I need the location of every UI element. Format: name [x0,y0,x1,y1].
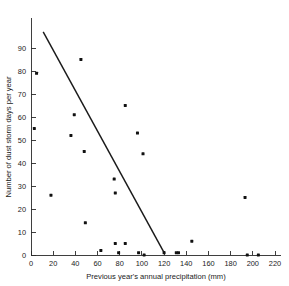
y-tick-label: 10 [18,228,26,237]
y-axis-tick-labels: 0102030405060708090 [18,44,26,260]
data-point [143,254,146,257]
data-point [246,254,249,257]
data-point [124,104,127,107]
y-tick-label: 70 [18,90,26,99]
x-axis-ticks [31,251,275,256]
x-tick-label: 100 [136,259,148,268]
data-point [114,191,117,194]
data-point [137,251,140,254]
data-point [114,242,117,245]
scatter-chart-figure: 020406080100120140160180200220 010203040… [0,0,289,286]
data-point [79,58,82,61]
data-point [244,196,247,199]
data-point [190,240,193,243]
data-point [84,221,87,224]
data-point [257,254,260,257]
data-point [117,251,120,254]
regression-trendline [43,32,164,253]
data-point [83,150,86,153]
x-tick-label: 120 [158,259,170,268]
data-point [177,251,180,254]
data-point [163,251,166,254]
x-tick-label: 0 [29,259,33,268]
y-tick-label: 20 [18,205,26,214]
axes-group [31,18,281,255]
x-tick-label: 180 [224,259,236,268]
data-point [99,249,102,252]
y-axis-ticks [31,48,36,255]
x-tick-label: 80 [116,259,124,268]
data-point [35,72,38,75]
x-tick-label: 60 [93,259,101,268]
data-point [136,132,139,135]
data-point [49,194,52,197]
y-tick-label: 0 [22,251,26,260]
x-axis-title: Previous year's annual precipitation (mm… [86,272,226,281]
x-tick-label: 140 [180,259,192,268]
x-tick-label: 220 [269,259,281,268]
data-point [69,134,72,137]
x-tick-label: 20 [49,259,57,268]
x-tick-label: 200 [247,259,259,268]
y-tick-label: 40 [18,159,26,168]
x-axis-tick-labels: 020406080100120140160180200220 [29,259,281,268]
trendline-group [43,32,164,253]
y-tick-label: 80 [18,67,26,76]
y-tick-label: 90 [18,44,26,53]
data-point [33,127,36,130]
y-tick-label: 30 [18,182,26,191]
y-tick-label: 60 [18,113,26,122]
data-points-group [33,58,260,257]
data-point [124,242,127,245]
data-point [142,152,145,155]
x-tick-label: 160 [202,259,214,268]
chart-canvas: 020406080100120140160180200220 010203040… [0,0,289,286]
data-point [113,178,116,181]
data-point [73,113,76,116]
y-axis-title: Number of dust storm days per year [4,76,13,198]
x-tick-label: 40 [71,259,79,268]
y-tick-label: 50 [18,136,26,145]
